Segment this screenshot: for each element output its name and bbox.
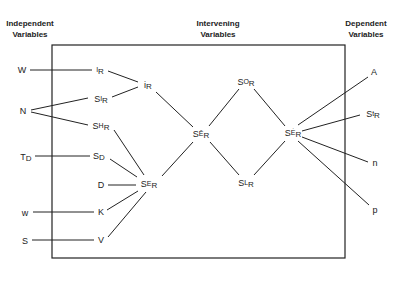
edge-N-SHR (31, 112, 88, 125)
node-D: D (98, 180, 105, 190)
edge-SHR-SER (114, 130, 144, 175)
node-TD: TD (20, 152, 31, 163)
edge-SERdot-StR (302, 115, 360, 131)
header-intervening-line2: Variables (188, 29, 248, 40)
edge-SER-SERbar (162, 142, 193, 176)
edge-SERbar-SLR (210, 142, 239, 175)
node-W: W (18, 65, 27, 75)
node-N: N (20, 106, 27, 116)
header-independent: Independent Variables (2, 18, 58, 40)
node-n: n (372, 158, 377, 168)
edge-SIR-iR (112, 87, 138, 97)
node-SOR: SOR (237, 77, 254, 88)
edge-V-SER (108, 192, 146, 237)
edge-SERdot-p (298, 141, 369, 205)
node-IR: IR (96, 65, 104, 76)
node-V: V (98, 235, 104, 245)
diagram-canvas (0, 0, 403, 288)
header-independent-line1: Independent (2, 18, 58, 29)
node-iR: iR (144, 80, 152, 91)
node-SIR: SIR (94, 94, 108, 105)
edge-SLR-SERdot (254, 141, 285, 175)
edge-SERdot-A (298, 77, 368, 125)
node-SER-dot: SĖR (285, 128, 301, 139)
edge-iR-SERbar (156, 92, 193, 127)
header-dependent-line1: Dependent (338, 18, 394, 29)
node-A: A (371, 67, 377, 77)
node-StR: StR (366, 109, 380, 120)
header-dependent-line2: Variables (338, 29, 394, 40)
node-K: K (98, 207, 104, 217)
header-intervening: Intervening Variables (188, 18, 248, 40)
node-SER: SER (141, 179, 157, 190)
header-intervening-line1: Intervening (188, 18, 248, 29)
node-SD: SD (93, 151, 105, 162)
node-SER-bar: SĒR (193, 129, 209, 140)
node-w: w (22, 208, 29, 218)
node-S: S (22, 236, 28, 246)
node-p: p (372, 205, 377, 215)
edge-SD-SER (110, 159, 137, 177)
node-SLR: SLR (238, 178, 254, 189)
node-SHR: SHR (93, 121, 110, 132)
edge-SOR-SERdot (254, 89, 285, 126)
edges (30, 70, 369, 240)
header-dependent: Dependent Variables (338, 18, 394, 40)
edge-SERbar-SOR (209, 89, 239, 126)
edge-N-SIR (31, 98, 88, 110)
header-independent-line2: Variables (2, 29, 58, 40)
edge-IR-iR (108, 71, 138, 82)
edge-SERdot-n (302, 137, 368, 162)
